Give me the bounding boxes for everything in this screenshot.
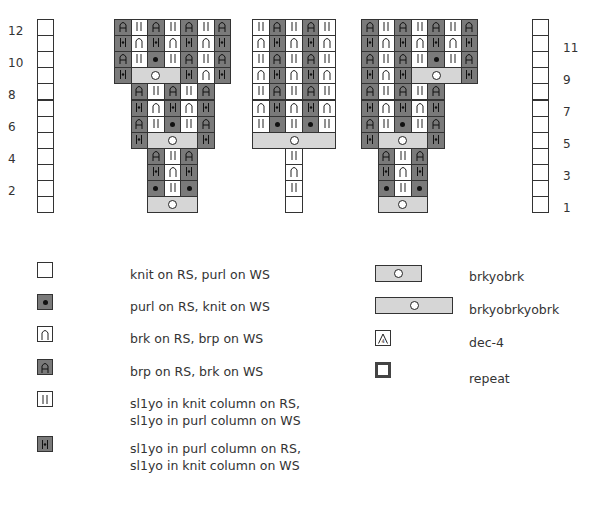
- stitch-cell-brp: [461, 51, 479, 68]
- stitch-cell-sl1yo-knit: [378, 51, 396, 68]
- stitch-cell-sl1yo-knit: [197, 51, 215, 68]
- stitch-cell-brp: [180, 19, 198, 36]
- bar-dot-bar-icon: [273, 38, 281, 49]
- stitch-cell-sl1yo-knit: [285, 19, 303, 36]
- double-bar-icon: [185, 119, 193, 130]
- brp-icon: [366, 53, 374, 66]
- legend-sl1yo-purl-label-2: sl1yo in knit column on WS: [130, 457, 300, 474]
- stitch-cell-sl1yo-purl: [411, 164, 429, 181]
- circle-icon: [398, 136, 407, 145]
- stitch-cell-sl1yo-knit: [394, 180, 412, 197]
- bar-dot-bar-icon: [307, 103, 315, 114]
- stitch-cell-sl1yo-knit: [411, 19, 429, 36]
- stitch-cell-sl1yo-knit: [147, 83, 165, 100]
- stitch-cell-brkyobrk: [147, 132, 198, 149]
- circle-icon: [398, 200, 407, 209]
- stitch-cell-sl1yo-knit: [252, 116, 270, 133]
- stitch-cell-sl1yo-knit: [378, 83, 396, 100]
- brp-icon: [218, 53, 226, 66]
- bar-dot-bar-icon: [218, 38, 226, 49]
- arch-icon: [323, 37, 331, 50]
- stitch-cell-brk: [285, 100, 303, 117]
- stitch-cell-brk: [318, 35, 336, 52]
- stitch-cell-sl1yo-knit: [285, 116, 303, 133]
- stitch-cell-sl1yo-knit: [285, 180, 303, 197]
- brp-icon: [273, 21, 281, 34]
- double-bar-icon: [290, 183, 298, 194]
- row-number-8: 8: [8, 88, 28, 102]
- ruler-cell: [532, 35, 549, 52]
- stitch-cell-sl1yo-knit: [285, 51, 303, 68]
- stitch-cell-sl1yo-knit: [180, 116, 198, 133]
- bar-dot-bar-icon: [273, 70, 281, 81]
- ruler-cell: [37, 116, 54, 133]
- stitch-cell-sl1yo-purl: [394, 35, 412, 52]
- bar-dot-bar-icon: [399, 38, 407, 49]
- double-bar-icon: [290, 119, 298, 130]
- double-bar-icon: [416, 119, 424, 130]
- legend-brkyobrk-swatch: [375, 265, 422, 282]
- stitch-cell-brk: [394, 164, 412, 181]
- double-bar-icon: [382, 54, 390, 65]
- legend-repeat-swatch: [375, 362, 391, 378]
- bar-dot-bar-icon: [366, 135, 374, 146]
- stitch-cell-brp: [361, 19, 379, 36]
- stitch-cell-sl1yo-purl: [180, 164, 198, 181]
- bar-dot-bar-icon: [382, 167, 390, 178]
- row-number-3: 3: [563, 169, 583, 183]
- arch-icon: [41, 329, 49, 340]
- ruler-cell: [37, 67, 54, 84]
- double-bar-icon: [257, 54, 265, 65]
- double-bar-icon: [399, 183, 407, 194]
- stitch-cell-brk: [411, 35, 429, 52]
- stitch-cell-sl1yo-purl: [214, 35, 232, 52]
- arch-icon: [202, 69, 210, 82]
- brp-icon: [307, 21, 315, 34]
- bar-dot-bar-icon: [399, 103, 407, 114]
- stitch-cell-brp: [114, 19, 132, 36]
- bar-dot-bar-icon: [152, 167, 160, 178]
- brp-icon: [169, 85, 177, 98]
- legend-dec4-swatch: 4: [375, 330, 391, 346]
- brp-icon: [273, 85, 281, 98]
- stitch-cell-purl: [427, 51, 445, 68]
- stitch-cell-brkyobrk: [378, 132, 429, 149]
- legend-sl1yo-knit-label-2: sl1yo in purl column on WS: [130, 412, 301, 429]
- stitch-cell-brp: [269, 83, 287, 100]
- double-bar-icon: [323, 119, 331, 130]
- bar-dot-bar-icon: [169, 103, 177, 114]
- stitch-cell-sl1yo-purl: [131, 100, 149, 117]
- ruler-cell: [532, 100, 549, 117]
- double-bar-icon: [152, 119, 160, 130]
- legend-purl-label: purl on RS, knit on WS: [130, 298, 270, 315]
- double-bar-icon: [169, 151, 177, 162]
- legend-brkyobrkyobrk-swatch: [375, 297, 453, 314]
- stitch-cell-brp: [269, 19, 287, 36]
- brp-icon: [366, 118, 374, 131]
- dot-icon: [170, 122, 175, 127]
- bar-dot-bar-icon: [366, 70, 374, 81]
- stitch-cell-sl1yo-purl: [114, 35, 132, 52]
- ruler-cell: [532, 67, 549, 84]
- stitch-cell-sl1yo-knit: [197, 19, 215, 36]
- stitch-cell-sl1yo-knit: [164, 19, 182, 36]
- stitch-cell-sl1yo-knit: [252, 83, 270, 100]
- stitch-cell-sl1yo-knit: [378, 19, 396, 36]
- bar-dot-bar-icon: [399, 70, 407, 81]
- brp-icon: [416, 150, 424, 163]
- stitch-cell-brk: [180, 100, 198, 117]
- legend-brkyobrkyobrk-label: brkyobrkyobrk: [469, 301, 559, 318]
- stitch-cell-sl1yo-purl: [164, 100, 182, 117]
- bar-dot-bar-icon: [366, 38, 374, 49]
- brp-icon: [399, 53, 407, 66]
- circle-icon: [410, 301, 419, 310]
- dot-icon: [434, 57, 439, 62]
- stitch-cell-sl1yo-knit: [378, 116, 396, 133]
- stitch-cell-sl1yo-purl: [214, 67, 232, 84]
- arch-icon: [202, 37, 210, 50]
- arch-icon: [290, 37, 298, 50]
- arch-icon: [169, 37, 177, 50]
- arch-icon: [323, 69, 331, 82]
- stitch-cell-purl: [394, 116, 412, 133]
- double-bar-icon: [290, 22, 298, 33]
